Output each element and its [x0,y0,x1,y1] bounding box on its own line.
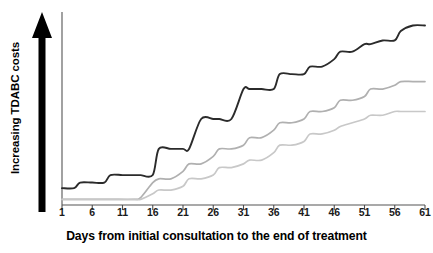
x-axis-tick-label: 56 [389,206,401,218]
x-axis-tick-label: 1 [59,206,65,218]
x-axis-tick-label: 51 [359,206,371,218]
series-line-pathway-low-cost [62,111,425,200]
x-axis-title: Days from initial consultation to the en… [0,229,433,243]
x-axis-tick-label: 11 [117,206,128,218]
x-axis-tick-label: 41 [298,206,310,218]
plot-area [0,0,433,225]
chart-figure: Increasing TDABC costs 16111621263136414… [0,0,433,253]
x-axis-tick-label: 61 [419,206,431,218]
x-axis-tick-label: 36 [268,206,280,218]
x-axis-tick-label: 26 [207,206,219,218]
x-axis-tick-label: 31 [238,206,250,218]
x-axis-tick-label: 21 [177,206,189,218]
series-line-pathway-medium-cost [62,81,425,199]
x-axis-tick-label: 16 [147,206,159,218]
x-axis-tick-labels: 161116212631364146515661 [0,206,433,222]
x-axis-tick-label: 6 [89,206,95,218]
series-group [62,25,425,200]
x-axis-tick-label: 46 [328,206,340,218]
